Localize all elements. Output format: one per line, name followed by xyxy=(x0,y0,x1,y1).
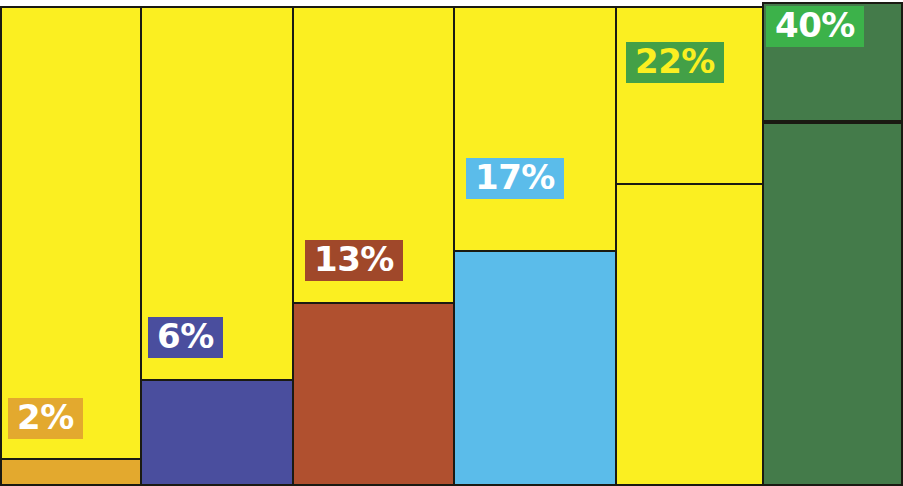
chart-column-4[interactable] xyxy=(453,0,617,486)
column-3-value-label: 13% xyxy=(305,240,403,281)
chart-column-2[interactable] xyxy=(140,0,294,486)
column-5-fill xyxy=(615,183,764,486)
column-6-fill xyxy=(762,122,903,486)
column-3-fill xyxy=(292,302,455,486)
column-2-value-label: 6% xyxy=(148,317,223,358)
column-5-value-label: 22% xyxy=(626,42,724,83)
column-4-fill xyxy=(453,250,617,486)
column-4-remainder xyxy=(453,6,617,252)
column-5-remainder xyxy=(615,6,764,185)
column-4-value-label: 17% xyxy=(466,158,564,199)
column-1-value-label: 2% xyxy=(8,398,83,439)
column-1-fill xyxy=(0,458,142,486)
column-2-fill xyxy=(140,379,294,486)
column-1-remainder xyxy=(0,6,142,462)
column-6-value-label: 40% xyxy=(766,6,864,47)
chart-column-6[interactable] xyxy=(762,0,903,486)
percentage-column-chart: 2% 6% 13% 17% 22% 40% xyxy=(0,0,903,486)
